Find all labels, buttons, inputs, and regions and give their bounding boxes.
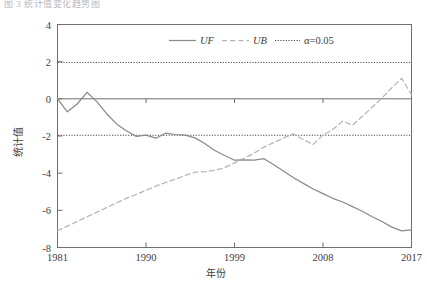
figure-caption-strip: 图 3 统计值变化趋势图 [0, 0, 427, 12]
mann-kendall-chart: UF UB α=0.05 4 2 0 -2 -4 -6 -8 1981 1990… [0, 0, 427, 289]
series-uf-line [58, 92, 412, 231]
y-tick-label: -6 [42, 205, 51, 216]
chart-legend: UF UB α=0.05 [169, 35, 334, 46]
legend-label-alpha: α=0.05 [304, 35, 334, 46]
x-axis-ticks [58, 99, 412, 248]
y-axis-title: 统计值 [12, 127, 24, 157]
x-tick-label: 2008 [313, 252, 334, 263]
figure-container: 图 3 统计值变化趋势图 [0, 0, 427, 289]
x-tick-labels: 1981 1990 1999 2008 2017 [47, 252, 422, 263]
legend-label-uf: UF [200, 35, 215, 46]
y-tick-label: 4 [46, 20, 52, 31]
x-axis-title: 年份 [206, 267, 226, 279]
y-tick-label: 2 [46, 57, 51, 68]
plot-frame [58, 25, 412, 248]
x-tick-label: 1999 [224, 252, 245, 263]
x-tick-label: 1990 [136, 252, 157, 263]
x-tick-label: 1981 [47, 252, 68, 263]
y-tick-label: -4 [42, 168, 51, 179]
figure-caption: 图 3 统计值变化趋势图 [4, 0, 100, 10]
y-tick-label: 0 [46, 94, 51, 105]
y-tick-labels: 4 2 0 -2 -4 -6 -8 [42, 20, 52, 254]
x-tick-label: 2017 [401, 252, 422, 263]
legend-label-ub: UB [253, 35, 268, 46]
y-tick-label: -2 [42, 131, 51, 142]
y-axis-ticks [58, 25, 63, 248]
